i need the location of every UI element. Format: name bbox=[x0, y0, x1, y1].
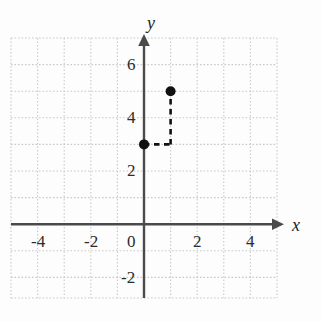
y-tick-label-6: 6 bbox=[127, 56, 136, 73]
plot-canvas bbox=[0, 0, 322, 322]
x-axis bbox=[11, 218, 284, 230]
y-tick-label-minus2: -2 bbox=[121, 269, 135, 286]
x-axis-arrow-icon bbox=[272, 218, 284, 230]
coordinate-plane-figure: -4 -2 0 2 4 6 4 2 -2 x y bbox=[0, 0, 322, 322]
data-point-lower bbox=[139, 139, 149, 149]
data-point-upper bbox=[166, 86, 176, 96]
y-tick-label-2: 2 bbox=[127, 162, 136, 179]
x-tick-label-minus2: -2 bbox=[84, 233, 98, 250]
x-tick-label-minus4: -4 bbox=[31, 233, 45, 250]
x-axis-label: x bbox=[292, 216, 300, 234]
y-tick-label-4: 4 bbox=[127, 109, 136, 126]
x-tick-label-zero: 0 bbox=[127, 233, 136, 250]
y-axis bbox=[138, 34, 150, 298]
y-axis-label: y bbox=[147, 14, 155, 32]
x-tick-label-4: 4 bbox=[246, 233, 255, 250]
x-tick-label-2: 2 bbox=[193, 233, 202, 250]
y-axis-arrow-icon bbox=[138, 34, 150, 46]
